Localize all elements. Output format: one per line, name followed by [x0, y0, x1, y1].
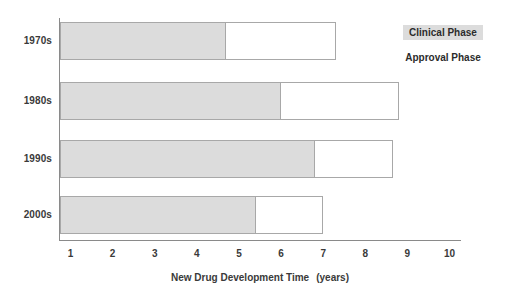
bar-segment-clinical-1990s[interactable] [60, 140, 315, 178]
bar-segment-approval-1990s[interactable] [314, 140, 393, 178]
x-axis-line [59, 240, 461, 241]
x-axis-unit-text: (years) [316, 272, 349, 283]
x-tick-8: 8 [353, 248, 377, 259]
x-tick-9: 9 [395, 248, 419, 259]
x-tick-4: 4 [185, 248, 209, 259]
x-axis-title: New Drug Development Time(years) [60, 272, 460, 283]
x-tick-3: 3 [143, 248, 167, 259]
x-tick-6: 6 [269, 248, 293, 259]
x-tick-5: 5 [227, 248, 251, 259]
x-tick-1: 1 [59, 248, 83, 259]
legend-item-clinical-phase[interactable]: Clinical Phase [403, 25, 483, 40]
bar-segment-clinical-1980s[interactable] [60, 82, 281, 120]
category-label-2000s: 2000s [0, 209, 52, 220]
category-label-1980s: 1980s [0, 95, 52, 106]
legend-item-approval-phase[interactable]: Approval Phase [399, 50, 487, 65]
category-label-1990s: 1990s [0, 153, 52, 164]
bar-segment-approval-2000s[interactable] [255, 196, 323, 234]
x-axis-title-text: New Drug Development Time [171, 272, 309, 283]
x-tick-10: 10 [437, 248, 461, 259]
bar-segment-clinical-2000s[interactable] [60, 196, 256, 234]
x-tick-2: 2 [101, 248, 125, 259]
drug-development-time-chart: 1970s1980s1990s2000s 12345678910 New Dru… [0, 0, 506, 307]
bar-segment-approval-1980s[interactable] [280, 82, 399, 120]
chart-legend: Clinical Phase Approval Phase [390, 22, 496, 72]
bar-segment-approval-1970s[interactable] [225, 22, 335, 60]
x-tick-7: 7 [311, 248, 335, 259]
category-label-1970s: 1970s [0, 35, 52, 46]
bar-segment-clinical-1970s[interactable] [60, 22, 226, 60]
